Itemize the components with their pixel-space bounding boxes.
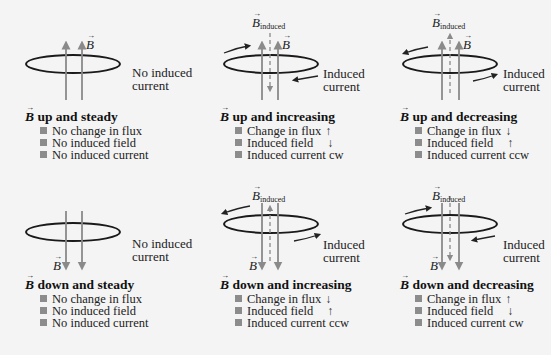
current-direction-arrow — [294, 235, 318, 241]
b-field-label: B — [282, 37, 290, 53]
current-loop — [26, 223, 120, 241]
panel-title: B down and decreasing — [400, 277, 534, 293]
bullet-item: Induced current ccw — [235, 316, 349, 331]
bullet-square-icon — [415, 139, 422, 146]
bullet-square-icon — [235, 319, 242, 326]
bullet-square-icon — [40, 307, 47, 314]
bullet-square-icon — [235, 127, 242, 134]
b-induced-label: Binduced — [252, 188, 285, 204]
bullet-square-icon — [415, 127, 422, 134]
panel-up-decreasing-graphic — [403, 36, 497, 100]
current-direction-arrow — [295, 76, 318, 80]
bullet-item: Induced current cw — [235, 148, 343, 163]
bullet-square-icon — [415, 319, 422, 326]
current-direction-arrow — [474, 236, 495, 240]
bullet-square-icon — [235, 307, 242, 314]
b-induced-label: Binduced — [432, 15, 465, 31]
panel-title: B down and steady — [25, 277, 134, 293]
panel-down-decreasing-graphic — [403, 196, 497, 266]
bullet-item: Induced current cw — [415, 316, 523, 331]
b-induced-label: Binduced — [432, 188, 465, 204]
current-loop — [26, 55, 120, 73]
bullet-square-icon — [40, 127, 47, 134]
induced-current-label: Inducedcurrent — [503, 238, 545, 264]
bullet-square-icon — [415, 151, 422, 158]
b-induced-label: Binduced — [252, 15, 285, 31]
bullet-item: No induced current — [40, 316, 149, 331]
current-direction-arrow — [405, 47, 428, 53]
induced-current-label: No inducedcurrent — [132, 237, 192, 263]
current-direction-arrow — [405, 208, 429, 214]
current-direction-arrow — [473, 75, 495, 81]
bullet-square-icon — [415, 295, 422, 302]
b-field-label: B — [463, 37, 471, 53]
panel-title: B up and steady — [25, 109, 118, 125]
induced-current-label: Inducedcurrent — [323, 67, 365, 93]
bullet-square-icon — [415, 307, 422, 314]
bullet-square-icon — [235, 139, 242, 146]
panel-title: B up and decreasing — [400, 109, 517, 125]
induced-current-label: No inducedcurrent — [132, 66, 192, 92]
b-field-label: B — [430, 258, 438, 274]
bullet-square-icon — [235, 151, 242, 158]
induced-current-label: Inducedcurrent — [503, 67, 545, 93]
current-loop — [224, 215, 318, 233]
current-loop — [224, 55, 318, 73]
bullet-square-icon — [40, 319, 47, 326]
bullet-square-icon — [235, 295, 242, 302]
current-direction-arrow — [224, 46, 248, 53]
b-field-label: B — [53, 258, 61, 274]
bullet-square-icon — [40, 151, 47, 158]
panel-up-steady-graphic — [26, 45, 120, 100]
bullet-item: Induced current ccw — [415, 148, 529, 163]
current-direction-arrow — [224, 206, 250, 213]
induced-current-label: Inducedcurrent — [323, 238, 365, 264]
bullet-item: No induced current — [40, 148, 149, 163]
bullet-square-icon — [40, 295, 47, 302]
panel-title: B down and increasing — [220, 277, 351, 293]
bullet-square-icon — [40, 139, 47, 146]
panel-down-increasing-graphic — [224, 203, 318, 266]
b-field-label: B — [249, 258, 257, 274]
panel-down-steady-graphic — [26, 211, 120, 266]
panel-up-increasing-graphic — [224, 33, 318, 100]
b-field-label: B — [86, 37, 94, 53]
panel-title: B up and increasing — [220, 109, 335, 125]
